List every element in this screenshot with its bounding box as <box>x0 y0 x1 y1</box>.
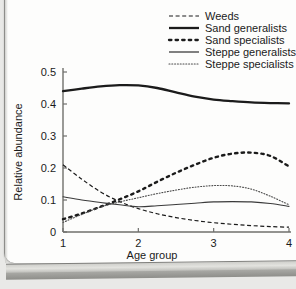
legend-item-weeds: Weeds <box>169 10 240 22</box>
legend-item-sand-generalists: Sand generalists <box>169 22 287 34</box>
legend-item-steppe-generalists: Steppe generalists <box>169 46 296 58</box>
chart-axes: 00.10.20.30.40.51234 <box>41 66 292 249</box>
y-tick-label: 0.3 <box>41 130 56 142</box>
series-line-sand-generalists <box>63 85 289 103</box>
legend-label-steppe-generalists: Steppe generalists <box>205 46 296 58</box>
x-tick-label: 3 <box>211 237 217 249</box>
series-line-steppe-specialists <box>63 185 289 222</box>
y-tick-label: 0.1 <box>41 194 56 206</box>
x-tick-label: 2 <box>135 237 141 249</box>
x-axis-title: Age group <box>127 249 178 261</box>
chart-figure: Weeds Sand generalists Sand specialists … <box>0 0 296 268</box>
legend-label-sand-specialists: Sand specialists <box>205 34 285 46</box>
y-tick-label: 0 <box>50 226 56 238</box>
x-tick-label: 1 <box>60 237 66 249</box>
legend-item-sand-specialists: Sand specialists <box>169 34 285 46</box>
series-line-steppe-generalists <box>63 197 289 207</box>
series-line-sand-specialists <box>63 153 289 220</box>
legend: Weeds Sand generalists Sand specialists … <box>169 10 296 70</box>
y-axis-title: Relative abundance <box>12 103 24 200</box>
page-background: Weeds Sand generalists Sand specialists … <box>0 0 296 289</box>
y-tick-label: 0.5 <box>41 66 56 78</box>
legend-label-sand-generalists: Sand generalists <box>205 22 287 34</box>
chart-series <box>63 85 289 227</box>
legend-item-steppe-specialists: Steppe specialists <box>169 58 294 70</box>
legend-label-steppe-specialists: Steppe specialists <box>205 58 294 70</box>
line-chart-svg: Weeds Sand generalists Sand specialists … <box>0 0 296 268</box>
series-line-weeds <box>63 165 289 227</box>
x-tick-label: 4 <box>286 237 292 249</box>
y-tick-label: 0.2 <box>41 162 56 174</box>
legend-label-weeds: Weeds <box>205 10 240 22</box>
y-tick-label: 0.4 <box>41 98 56 110</box>
